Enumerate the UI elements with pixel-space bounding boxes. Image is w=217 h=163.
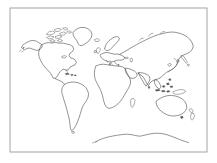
landmass-tasmania: [180, 116, 183, 118]
world-map-canvas: [0, 0, 217, 163]
world-map-figure: [0, 0, 217, 163]
map-background: [0, 0, 217, 163]
